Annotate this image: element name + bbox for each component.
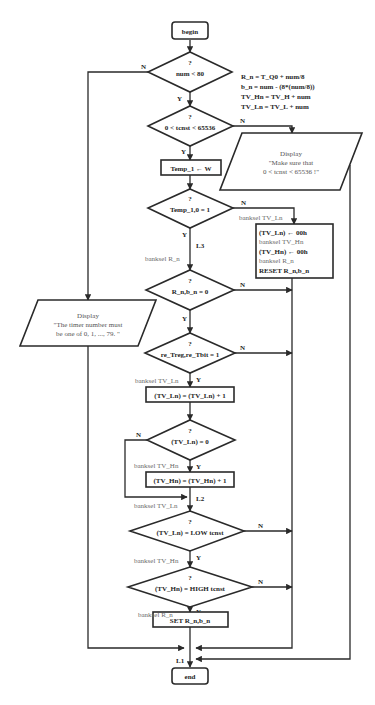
svg-text:N: N bbox=[240, 117, 245, 125]
decision-tvln-low: ? (TV_Ln) = LOW tcnst N Y bbox=[130, 511, 263, 562]
svg-text:Y: Y bbox=[181, 148, 186, 156]
svg-text:(TV_Hn) ← 00h: (TV_Hn) ← 00h bbox=[259, 248, 308, 256]
svg-text:Display: Display bbox=[280, 150, 302, 158]
svg-text:banksel TV_Ln: banksel TV_Ln bbox=[134, 502, 178, 510]
svg-text:banksel TV_Ln: banksel TV_Ln bbox=[135, 377, 179, 385]
svg-text:Temp_1,0 = 1: Temp_1,0 = 1 bbox=[170, 206, 211, 214]
svg-text:banksel TV_Hn: banksel TV_Hn bbox=[259, 238, 304, 246]
svg-text:be one of 0, 1, ..., 79. ": be one of 0, 1, ..., 79. " bbox=[56, 330, 120, 338]
svg-text:b_n = num - (8*(num/8)): b_n = num - (8*(num/8)) bbox=[241, 83, 315, 91]
svg-text:L3: L3 bbox=[196, 242, 205, 250]
svg-text:?: ? bbox=[188, 113, 192, 121]
svg-text:(TV_Ln) = 0: (TV_Ln) = 0 bbox=[171, 438, 209, 446]
svg-text:banksel R_n: banksel R_n bbox=[259, 257, 294, 265]
svg-text:Y: Y bbox=[182, 231, 187, 239]
svg-text:(TV_Hn) = (TV_Hn) + 1: (TV_Hn) = (TV_Hn) + 1 bbox=[154, 477, 227, 485]
decision-tcnst-range: ? 0 < tcnst < 65536 N Y bbox=[148, 106, 245, 156]
svg-text:N: N bbox=[240, 344, 245, 352]
display-tcnst-warning: Display "Make sure that 0 < tcnst < 6553… bbox=[220, 133, 362, 190]
svg-text:?: ? bbox=[188, 277, 192, 285]
svg-text:Y: Y bbox=[196, 554, 201, 562]
svg-text:end: end bbox=[185, 673, 196, 681]
svg-text:TV_Hn = TV_H + num: TV_Hn = TV_H + num bbox=[241, 93, 311, 101]
svg-text:banksel TV_Ln: banksel TV_Ln bbox=[239, 214, 283, 222]
decision-rn-bn-zero: ? R_n,b_n = 0 N Y bbox=[146, 270, 245, 323]
begin-terminal: begin bbox=[172, 22, 208, 39]
svg-text:Y: Y bbox=[196, 376, 201, 384]
svg-text:RESET R_n,b_n: RESET R_n,b_n bbox=[259, 267, 309, 275]
svg-text:?: ? bbox=[188, 518, 192, 526]
process-reset-block: (TV_Ln) ← 00h banksel TV_Hn (TV_Hn) ← 00… bbox=[256, 224, 333, 278]
svg-text:banksel TV_Hn: banksel TV_Hn bbox=[134, 557, 179, 565]
svg-text:Y: Y bbox=[196, 463, 201, 471]
svg-text:L2: L2 bbox=[196, 495, 205, 503]
svg-text:N: N bbox=[258, 578, 263, 586]
decision-tvhn-high: ? (TV_Hn) = HIGH tcnst N Y bbox=[128, 567, 263, 616]
svg-text:N: N bbox=[141, 63, 146, 71]
svg-text:"Make sure that: "Make sure that bbox=[269, 159, 314, 167]
svg-text:0 < tcnst < 65536 !": 0 < tcnst < 65536 !" bbox=[263, 168, 319, 176]
assignments-note: R_n = T_Q0 + num/8 b_n = num - (8*(num/8… bbox=[241, 73, 315, 111]
svg-text:R_n = T_Q0 + num/8: R_n = T_Q0 + num/8 bbox=[241, 73, 305, 81]
flowchart: begin end R_n = T_Q0 + num/8 b_n = num -… bbox=[0, 0, 375, 705]
svg-text:(TV_Ln) ← 00h: (TV_Ln) ← 00h bbox=[259, 229, 307, 237]
process-inc-tvhn: (TV_Hn) = (TV_Hn) + 1 bbox=[146, 472, 234, 487]
display-timer-warning: Display "The timer number must be one of… bbox=[20, 300, 156, 346]
process-inc-tvln: (TV_Ln) = (TV_Ln) + 1 bbox=[146, 387, 234, 402]
svg-text:"The timer number must: "The timer number must bbox=[54, 321, 123, 329]
svg-text:N: N bbox=[240, 281, 245, 289]
svg-text:num < 80: num < 80 bbox=[176, 70, 205, 78]
svg-text:banksel TV_Hn: banksel TV_Hn bbox=[134, 462, 179, 470]
svg-text:(TV_Ln) = LOW tcnst: (TV_Ln) = LOW tcnst bbox=[156, 529, 224, 537]
svg-text:?: ? bbox=[188, 427, 192, 435]
svg-text:N: N bbox=[258, 522, 263, 530]
svg-text:re_Treg,re_Tbit = 1: re_Treg,re_Tbit = 1 bbox=[161, 351, 220, 359]
svg-text:0 < tcnst < 65536: 0 < tcnst < 65536 bbox=[165, 124, 216, 132]
svg-text:banksel R_n: banksel R_n bbox=[145, 255, 180, 263]
svg-text:Temp_1 ← W: Temp_1 ← W bbox=[170, 165, 211, 173]
svg-text:?: ? bbox=[188, 195, 192, 203]
svg-text:banksel R_n: banksel R_n bbox=[138, 611, 173, 619]
end-terminal: end bbox=[172, 668, 208, 684]
svg-text:?: ? bbox=[188, 340, 192, 348]
svg-text:TV_Ln = TV_L + num: TV_Ln = TV_L + num bbox=[241, 103, 309, 111]
svg-text:Y: Y bbox=[177, 95, 182, 103]
svg-text:N: N bbox=[241, 199, 246, 207]
svg-text:(TV_Ln) = (TV_Ln) + 1: (TV_Ln) = (TV_Ln) + 1 bbox=[154, 392, 226, 400]
svg-text:R_n,b_n = 0: R_n,b_n = 0 bbox=[172, 288, 209, 296]
process-temp-assign: Temp_1 ← W bbox=[161, 160, 221, 175]
svg-text:begin: begin bbox=[182, 28, 198, 36]
svg-text:L1: L1 bbox=[176, 657, 185, 665]
decision-num-lt-80: ? num < 80 N Y bbox=[141, 52, 232, 103]
svg-text:N: N bbox=[136, 431, 141, 439]
svg-text:Display: Display bbox=[77, 312, 99, 320]
svg-text:(TV_Hn) = HIGH tcnst: (TV_Hn) = HIGH tcnst bbox=[155, 585, 226, 593]
svg-text:SET R_n,b_n: SET R_n,b_n bbox=[170, 617, 210, 625]
svg-text:?: ? bbox=[188, 574, 192, 582]
decision-temp-bit: ? Temp_1,0 = 1 N Y bbox=[148, 189, 246, 239]
svg-text:Y: Y bbox=[182, 315, 187, 323]
svg-text:?: ? bbox=[188, 59, 192, 67]
